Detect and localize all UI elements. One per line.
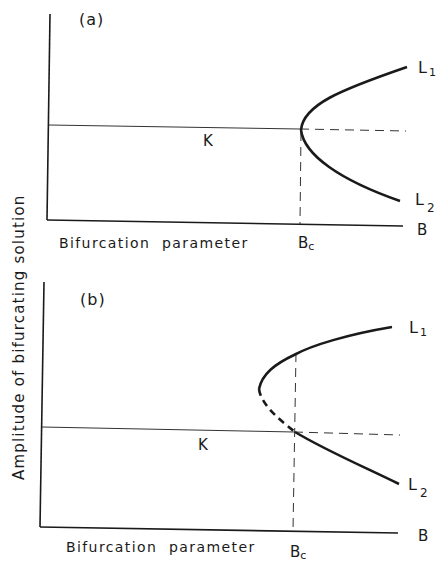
panel-b-branch-l2 xyxy=(295,432,399,484)
bifurcation-diagram: Amplitude of bifurcating solution (a) K … xyxy=(0,0,448,568)
panel-b-axis-end-label: B xyxy=(418,527,428,545)
panel-a-k-label: K xyxy=(203,132,214,150)
panel-a: (a) K L1 L2 Bifurcation parameter Bc B xyxy=(47,10,436,253)
panel-a-critical-line xyxy=(300,132,301,224)
panel-a-branch-l1 xyxy=(301,67,407,130)
panel-a-trivial-branch-stable xyxy=(49,125,300,129)
panel-a-x-axis xyxy=(47,220,403,226)
panel-a-l1-label: L1 xyxy=(418,58,436,79)
panel-a-branch-l2 xyxy=(301,130,400,201)
panel-a-axis-end-label: B xyxy=(417,221,427,239)
panel-b-l1-label: L1 xyxy=(409,318,427,339)
panel-a-bc-label: Bc xyxy=(298,234,314,253)
panel-b: (b) K L1 L2 Bifurcation parameter Bc B xyxy=(40,282,428,562)
panel-b-k-label: K xyxy=(198,436,209,454)
panel-b-trivial-branch-stable xyxy=(42,427,294,432)
panel-a-l2-label: L2 xyxy=(415,190,435,215)
panel-b-x-axis-label: Bifurcation parameter xyxy=(66,539,256,555)
panel-b-bc-label: Bc xyxy=(290,543,306,562)
panel-b-trivial-branch-unstable xyxy=(294,432,400,435)
panel-a-trivial-branch-unstable xyxy=(300,129,406,131)
panel-a-x-axis-label: Bifurcation parameter xyxy=(59,235,249,251)
panel-b-critical-line xyxy=(293,353,296,531)
panel-b-x-axis xyxy=(40,527,398,533)
panel-a-label: (a) xyxy=(79,10,104,29)
panel-b-y-axis xyxy=(40,282,44,527)
panel-b-label: (b) xyxy=(80,290,106,309)
panel-b-branch-unstable xyxy=(259,389,295,432)
panel-b-branch-l1-stable xyxy=(259,327,392,389)
panel-b-l2-label: L2 xyxy=(408,475,428,500)
panel-a-y-axis xyxy=(47,14,50,220)
y-axis-label: Amplitude of bifurcating solution xyxy=(10,195,28,480)
